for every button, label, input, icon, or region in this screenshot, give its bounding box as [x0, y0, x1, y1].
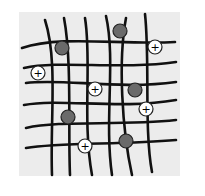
counter-ion: + — [88, 82, 102, 96]
fixed-charge-site — [128, 83, 142, 97]
plus-sign: + — [80, 140, 89, 153]
fixed-charge-site — [119, 134, 133, 148]
counter-ion: + — [139, 102, 153, 116]
polymer-network-diagram: +++++ — [0, 0, 205, 196]
plus-sign: + — [33, 67, 42, 80]
fixed-charge-site — [55, 41, 69, 55]
plus-sign: + — [90, 83, 99, 96]
counter-ion: + — [31, 66, 45, 80]
counter-ion: + — [78, 139, 92, 153]
fixed-charge-site — [113, 24, 127, 38]
plus-sign: + — [141, 103, 150, 116]
plus-sign: + — [150, 41, 159, 54]
fixed-charge-site — [61, 110, 75, 124]
counter-ion: + — [148, 40, 162, 54]
